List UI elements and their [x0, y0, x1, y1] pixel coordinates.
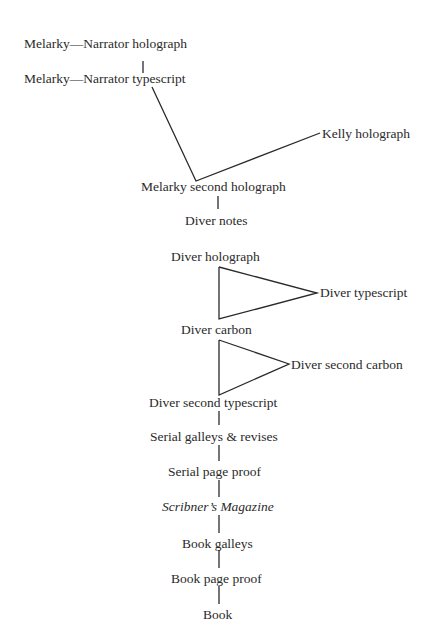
edge-diver-carbon-second-carbon-second-typescript: [219, 340, 289, 395]
node-serial-page-proof: Serial page proof: [168, 464, 261, 480]
node-kelly-holograph: Kelly holograph: [322, 126, 410, 142]
node-diver-second-carbon: Diver second carbon: [291, 357, 403, 373]
node-diver-holograph: Diver holograph: [171, 249, 260, 265]
node-diver-typescript: Diver typescript: [320, 285, 407, 301]
edge-diver-holograph-typescript-carbon: [219, 267, 317, 319]
node-book: Book: [203, 607, 232, 623]
node-scribners-magazine: Scribner’s Magazine: [162, 499, 274, 515]
node-book-page-proof: Book page proof: [171, 571, 262, 587]
node-diver-carbon: Diver carbon: [181, 322, 252, 338]
node-melarky-narrator-holograph: Melarky—Narrator holograph: [24, 36, 187, 52]
node-diver-notes: Diver notes: [185, 213, 248, 229]
node-serial-galleys: Serial galleys & revises: [150, 429, 278, 445]
node-melarky-second-holograph: Melarky second holograph: [141, 179, 286, 195]
stemma-diagram: Melarky—Narrator holograph Melarky—Narra…: [0, 0, 439, 641]
node-book-galleys: Book galleys: [182, 536, 253, 552]
edge-typescript-kelly-to-second-holograph: [152, 87, 320, 181]
node-diver-second-typescript: Diver second typescript: [149, 395, 277, 411]
node-melarky-narrator-typescript: Melarky—Narrator typescript: [24, 71, 186, 87]
